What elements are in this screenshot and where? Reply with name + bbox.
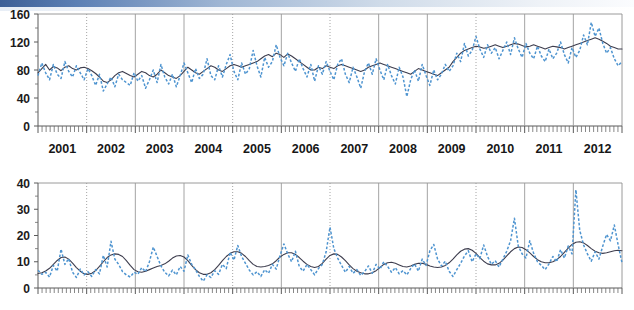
x-tick-label-2003: 2003 — [146, 142, 174, 156]
y-tick-label-40: 40 — [17, 92, 31, 106]
x-tick-label-2011: 2011 — [535, 142, 562, 156]
y-tick-label-120: 120 — [10, 36, 30, 50]
x-tick-label-2002: 2002 — [97, 142, 125, 156]
y-tick-label-0: 0 — [23, 282, 30, 296]
y-tick-label-10: 10 — [17, 255, 31, 269]
x-tick-label-2010: 2010 — [486, 142, 514, 156]
x-tick-label-2001: 2001 — [48, 142, 76, 156]
x-tick-label-2005: 2005 — [243, 142, 271, 156]
y-tick-label-20: 20 — [17, 229, 31, 243]
x-tick-label-2007: 2007 — [340, 142, 368, 156]
y-tick-label-80: 80 — [17, 64, 31, 78]
bottom-edge-fade — [0, 304, 634, 310]
y-tick-label-40: 40 — [17, 177, 31, 191]
x-tick-label-2006: 2006 — [292, 142, 320, 156]
y-tick-label-0: 0 — [23, 120, 30, 134]
bottom-chart-panel: 010203040 — [0, 168, 634, 310]
y-tick-label-30: 30 — [17, 203, 31, 217]
x-tick-label-2012: 2012 — [584, 142, 612, 156]
top-chart-svg: 0408012016020012002200320042005200620072… — [0, 0, 634, 172]
top-chart-panel: 0408012016020012002200320042005200620072… — [0, 0, 634, 172]
chart-figure: 0408012016020012002200320042005200620072… — [0, 0, 634, 310]
x-tick-label-2009: 2009 — [438, 142, 466, 156]
bottom-chart-svg: 010203040 — [0, 168, 634, 310]
y-tick-label-160: 160 — [10, 8, 30, 22]
x-tick-label-2004: 2004 — [194, 142, 222, 156]
x-tick-label-2008: 2008 — [389, 142, 417, 156]
